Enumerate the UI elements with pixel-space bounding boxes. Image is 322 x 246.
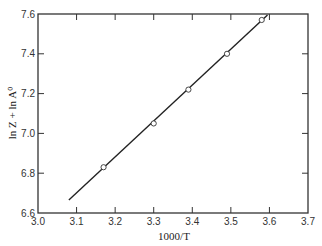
x-tick-label: 3.4 <box>185 216 199 227</box>
y-tick-labels: 6.66.87.07.27.47.6 <box>21 9 35 219</box>
x-tick-label: 3.3 <box>147 216 161 227</box>
fit-line <box>69 15 268 200</box>
x-tick-label: 3.2 <box>108 216 122 227</box>
data-point <box>259 17 264 22</box>
data-point <box>101 165 106 170</box>
y-tick-label: 7.4 <box>21 48 35 59</box>
y-tick-label: 6.6 <box>21 208 35 219</box>
data-point <box>224 51 229 56</box>
x-tick-label: 3.6 <box>262 216 276 227</box>
regression-line <box>69 15 268 200</box>
y-tick-label: 7.0 <box>21 128 35 139</box>
chart: 3.03.13.23.33.43.53.63.7 6.66.87.07.27.4… <box>0 0 322 246</box>
tick-marks <box>38 14 308 213</box>
x-tick-label: 3.1 <box>70 216 84 227</box>
y-tick-label: 7.2 <box>21 88 35 99</box>
y-tick-label: 7.6 <box>21 9 35 20</box>
plot-frame <box>38 14 308 213</box>
y-tick-label: 6.8 <box>21 168 35 179</box>
x-tick-label: 3.7 <box>301 216 315 227</box>
x-tick-labels: 3.03.13.23.33.43.53.63.7 <box>31 216 315 227</box>
data-point <box>151 121 156 126</box>
plot-border <box>38 14 308 213</box>
x-axis-label: 1000/T <box>158 230 190 242</box>
data-point <box>186 87 191 92</box>
y-axis-label: ln Z + ln A⁰ <box>6 86 18 139</box>
x-tick-label: 3.5 <box>224 216 238 227</box>
